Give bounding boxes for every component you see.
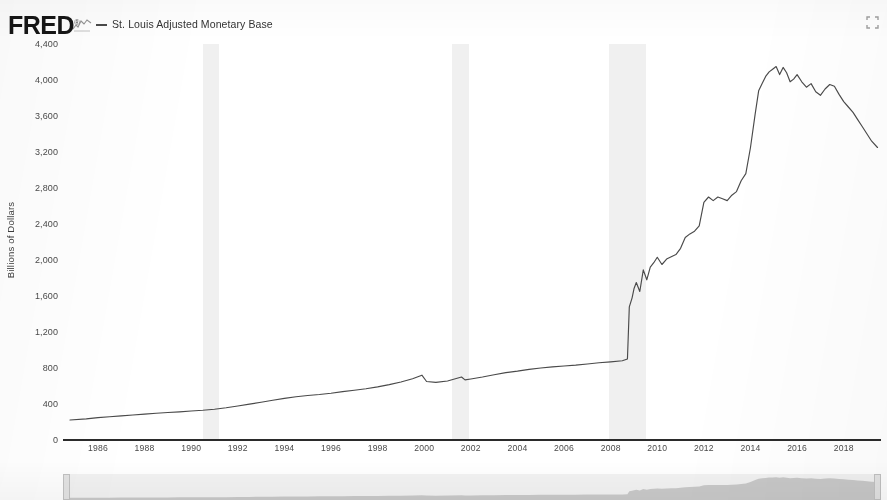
- range-handle-right[interactable]: [874, 474, 881, 500]
- x-axis-tick: 2018: [834, 443, 854, 453]
- x-axis-tick: 2012: [694, 443, 714, 453]
- x-axis-tick: 2004: [507, 443, 527, 453]
- x-axis-tick: 2000: [414, 443, 434, 453]
- series-line-path: [70, 67, 878, 421]
- fred-logo[interactable]: FRED®: [8, 13, 79, 38]
- legend-series-label[interactable]: St. Louis Adjusted Monetary Base: [112, 18, 273, 30]
- x-axis-baseline: [63, 439, 881, 441]
- x-axis-tick: 1986: [88, 443, 108, 453]
- plot-area[interactable]: [63, 44, 881, 440]
- y-axis-tick: 0: [18, 435, 58, 445]
- range-handle-left[interactable]: [63, 474, 70, 500]
- y-axis-tick: 4,400: [18, 39, 58, 49]
- y-axis-tick: 2,000: [18, 255, 58, 265]
- chart-plot-wrapper: Billions of Dollars 04008001,2001,6002,0…: [0, 44, 887, 456]
- chart-legend: St. Louis Adjusted Monetary Base: [96, 18, 273, 30]
- fred-logo-text: FRED: [8, 11, 74, 39]
- y-axis-tick: 4,000: [18, 75, 58, 85]
- x-axis-tick: 2016: [787, 443, 807, 453]
- x-axis-tick: 2006: [554, 443, 574, 453]
- fullscreen-expand-icon[interactable]: [866, 16, 879, 29]
- y-axis-tick: 400: [18, 399, 58, 409]
- x-axis-tick: 2010: [647, 443, 667, 453]
- y-axis-tick: 3,600: [18, 111, 58, 121]
- y-axis-tick: 800: [18, 363, 58, 373]
- x-axis-tick: 1988: [135, 443, 155, 453]
- chart-header: FRED® St. Louis Adjusted Monetary Base: [0, 0, 887, 44]
- y-axis-tick: 3,200: [18, 147, 58, 157]
- x-axis-tick: 1996: [321, 443, 341, 453]
- y-axis-tick: 1,200: [18, 327, 58, 337]
- series-line-svg: [63, 44, 881, 440]
- x-axis-tick: 2014: [741, 443, 761, 453]
- x-axis-tick: 2008: [601, 443, 621, 453]
- x-axis-tick: 1994: [274, 443, 294, 453]
- y-axis-tick: 2,800: [18, 183, 58, 193]
- range-selector-area-path: [63, 477, 881, 500]
- x-axis-tick: 1992: [228, 443, 248, 453]
- x-axis-tick: 2002: [461, 443, 481, 453]
- y-axis-tick: 2,400: [18, 219, 58, 229]
- x-axis-tick-labels: 1986198819901992199419961998200020022004…: [63, 443, 881, 461]
- x-axis-tick: 1990: [181, 443, 201, 453]
- x-axis-tick: 1998: [368, 443, 388, 453]
- fred-chart-widget: FRED® St. Louis Adjusted Monetary Base B…: [0, 0, 887, 500]
- range-selector-mini-chart: [63, 474, 881, 500]
- y-axis-tick: 1,600: [18, 291, 58, 301]
- legend-line-swatch: [96, 24, 107, 26]
- fred-line-chart-icon: [72, 18, 92, 32]
- range-selector[interactable]: [63, 474, 881, 500]
- y-axis-tick-labels: 04008001,2001,6002,0002,4002,8003,2003,6…: [14, 44, 58, 456]
